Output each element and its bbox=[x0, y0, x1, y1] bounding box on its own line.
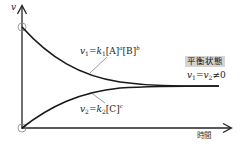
equilibrium-condition: v1=v2≠0 bbox=[187, 71, 226, 81]
species-c: [C] bbox=[106, 104, 120, 114]
exponent-c: c bbox=[120, 103, 123, 109]
species-b: [B] bbox=[123, 46, 137, 56]
formula-v2: v2=k2[C]c bbox=[80, 104, 123, 115]
leader-line-v2 bbox=[90, 92, 105, 103]
cond-zero: 0 bbox=[220, 70, 226, 80]
species-a: [A] bbox=[106, 46, 120, 56]
leader-line-v1 bbox=[90, 57, 107, 73]
formula-v1: v1=k1[A]a[B]b bbox=[80, 46, 140, 57]
x-axis-label: 時間 bbox=[197, 132, 211, 140]
y-axis-label: v bbox=[11, 3, 16, 12]
cond-ne: ≠ bbox=[212, 70, 220, 80]
exponent-b: b bbox=[136, 45, 140, 51]
equilibrium-badge: 平衡状態 bbox=[185, 56, 225, 67]
